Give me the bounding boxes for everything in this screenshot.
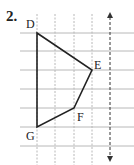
vertex-label-e: E [94, 58, 101, 73]
vertex-label-g: G [26, 129, 35, 144]
grid-diagram [0, 0, 134, 165]
vertex-label-f: F [77, 110, 84, 125]
diagram: 2. D E F G [0, 0, 134, 165]
vertex-label-d: D [26, 17, 35, 32]
arrow-up-icon [107, 12, 113, 18]
arrow-down-icon [107, 156, 113, 162]
